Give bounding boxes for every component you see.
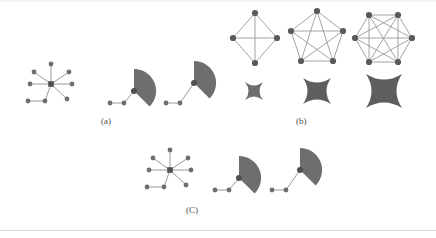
star-graph-7-spokes-a (26, 62, 75, 104)
caption-panel-a: (a) (101, 116, 111, 126)
complete-graph-k4 (230, 10, 280, 66)
figure-container: (a) (b) (C) (0, 0, 436, 238)
complete-graph-k6 (352, 12, 415, 65)
fan-shape-small-c (213, 156, 261, 194)
fan-shape-elevated-c (270, 148, 322, 192)
figure-drawing-canvas (0, 0, 436, 238)
complete-graph-k5 (288, 8, 346, 64)
caption-panel-b: (b) (296, 116, 307, 126)
astroid-blob-k5 (303, 78, 331, 104)
caption-panel-c: (C) (186, 205, 198, 215)
astroid-blob-k4 (245, 82, 263, 100)
fan-shape-elevated-a (164, 61, 216, 105)
bottom-divider-rule (0, 230, 436, 231)
fan-shape-small-a (108, 69, 156, 107)
star-graph-7-spokes-c (145, 148, 194, 190)
astroid-blob-k6 (366, 74, 402, 108)
